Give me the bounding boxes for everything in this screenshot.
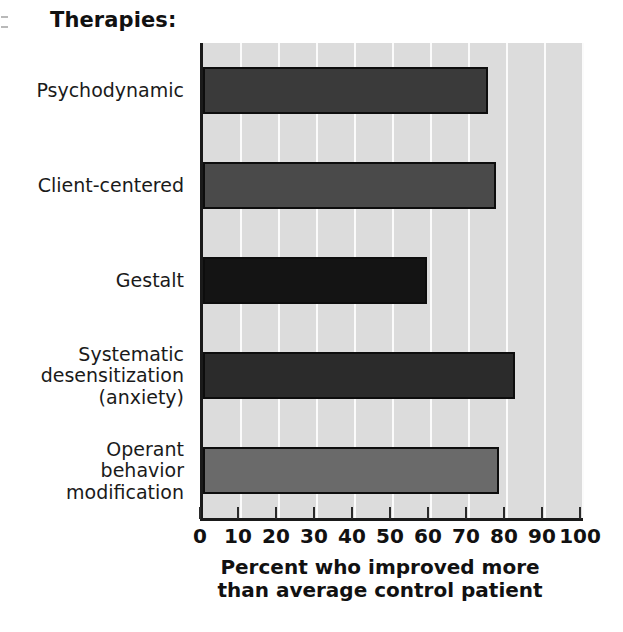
x-tick-label: 60 [414, 524, 442, 548]
x-tick-label: 50 [376, 524, 404, 548]
bar [203, 352, 515, 399]
x-tick [313, 507, 315, 519]
category-label-line: modification [0, 482, 184, 503]
x-tick [465, 507, 467, 519]
x-tick [275, 507, 277, 519]
chart-figure: Therapies: PsychodynamicClient-centeredG… [0, 0, 623, 632]
category-label: Client-centered [0, 175, 184, 196]
category-label-line: desensitization [0, 365, 184, 386]
x-tick [427, 507, 429, 519]
x-tick-label: 40 [338, 524, 366, 548]
category-label-line: Operant [0, 439, 184, 460]
bar [203, 67, 488, 114]
x-tick-label: 80 [490, 524, 518, 548]
chart-title: Therapies: [50, 8, 176, 32]
scan-artifact [1, 16, 8, 18]
category-label-line: Psychodynamic [0, 80, 184, 101]
x-tick-label: 90 [528, 524, 556, 548]
x-tick-label: 100 [559, 524, 601, 548]
category-axis-labels: PsychodynamicClient-centeredGestaltSyste… [0, 43, 192, 518]
x-tick [541, 507, 543, 519]
category-label-line: Gestalt [0, 270, 184, 291]
category-label: Psychodynamic [0, 80, 184, 101]
plot-area [200, 43, 583, 518]
x-tick-label: 20 [262, 524, 290, 548]
x-tick-label: 10 [224, 524, 252, 548]
bars-layer [203, 43, 583, 518]
bar [203, 162, 496, 209]
x-tick [199, 507, 201, 519]
x-axis-title: Percent who improved morethan average co… [170, 556, 590, 602]
x-tick [579, 507, 581, 519]
category-label-line: behavior [0, 460, 184, 481]
x-tick [351, 507, 353, 519]
bar [203, 257, 427, 304]
x-axis-ticks [200, 507, 583, 519]
category-label-line: Client-centered [0, 175, 184, 196]
category-label: Gestalt [0, 270, 184, 291]
x-axis-title-line: Percent who improved more [170, 556, 590, 579]
x-tick-label: 70 [452, 524, 480, 548]
category-label: Operantbehaviormodification [0, 439, 184, 503]
x-tick-label: 30 [300, 524, 328, 548]
category-label-line: Systematic [0, 344, 184, 365]
scan-artifact [1, 26, 8, 28]
x-tick [503, 507, 505, 519]
category-label-line: (anxiety) [0, 387, 184, 408]
x-tick [389, 507, 391, 519]
x-tick-label: 0 [193, 524, 207, 548]
category-label: Systematicdesensitization(anxiety) [0, 344, 184, 408]
x-axis-tick-labels: 0102030405060708090100 [200, 524, 583, 550]
x-tick [237, 507, 239, 519]
x-axis-title-line: than average control patient [170, 579, 590, 602]
bar [203, 447, 499, 494]
